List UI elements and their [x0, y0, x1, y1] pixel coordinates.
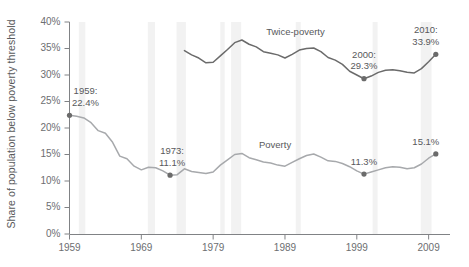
y-axis-tick-label: 5% — [27, 201, 61, 212]
x-axis-tick-label: 1999 — [334, 242, 380, 253]
poverty-chart-figure: Share of population below poverty thresh… — [0, 0, 469, 267]
annotation-value: 29.3% — [342, 60, 386, 72]
data-point-marker — [167, 173, 172, 178]
annotation-value: 11.1% — [150, 157, 194, 169]
annotation-value: 33.9% — [404, 36, 448, 48]
data-point-marker — [67, 113, 72, 118]
series-name-label: Poverty — [259, 139, 291, 150]
recession-band — [79, 22, 85, 234]
y-axis-tick-label: 20% — [27, 122, 61, 133]
x-axis-tick-label: 1969 — [118, 242, 164, 253]
x-axis-tick-label: 1959 — [47, 242, 93, 253]
annotation-year: 1959: — [64, 85, 108, 97]
recession-band — [148, 22, 155, 234]
x-axis-tick-label: 1979 — [190, 242, 236, 253]
data-point-annotation: 2000:29.3% — [342, 49, 386, 72]
y-axis-tick-label: 35% — [27, 42, 61, 53]
y-axis-tick-label: 15% — [27, 148, 61, 159]
y-axis-tick-label: 0% — [27, 228, 61, 239]
data-point-annotation: 11.3% — [342, 156, 386, 168]
recession-band — [177, 22, 186, 234]
y-axis-ticks — [65, 22, 70, 234]
annotation-year: 2010: — [404, 24, 448, 36]
data-point-annotation: 1959:22.4% — [64, 85, 108, 108]
data-point-marker — [433, 151, 438, 156]
series-name-label: Twice-poverty — [266, 26, 325, 37]
data-point-marker — [361, 76, 366, 81]
annotation-year: 2000: — [342, 49, 386, 61]
data-point-marker — [433, 52, 438, 57]
data-point-annotation: 1973:11.1% — [150, 145, 194, 168]
y-axis-tick-label: 25% — [27, 95, 61, 106]
data-point-annotation: 2010:33.9% — [404, 24, 448, 47]
x-axis-tick-label: 1989 — [262, 242, 308, 253]
y-axis-tick-label: 10% — [27, 175, 61, 186]
recession-band — [421, 22, 432, 234]
chart-plot-area — [0, 0, 469, 267]
y-axis-tick-label: 30% — [27, 69, 61, 80]
recession-band — [231, 22, 241, 234]
axis-lines — [70, 22, 451, 235]
annotation-value: 22.4% — [64, 97, 108, 109]
annotation-value: 11.3% — [342, 156, 386, 168]
x-axis-tick-label: 2009 — [406, 242, 452, 253]
data-point-marker — [361, 172, 366, 177]
annotation-value: 15.1% — [404, 136, 448, 148]
data-point-annotation: 15.1% — [404, 136, 448, 148]
y-axis-tick-label: 40% — [27, 16, 61, 27]
annotation-year: 1973: — [150, 145, 194, 157]
recession-band — [296, 22, 301, 234]
x-axis-ticks — [70, 235, 429, 240]
